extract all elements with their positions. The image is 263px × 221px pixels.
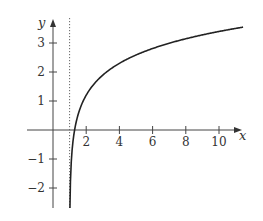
curve-group [70,27,243,208]
log-curve-plot: xy 246810−2−1123 [0,0,263,221]
y-tick-label: 3 [37,36,45,50]
x-tick-label: 8 [182,135,190,149]
y-tick-label: 1 [37,94,45,108]
axes: xy [27,15,247,208]
x-axis-label: x [239,128,247,143]
x-tick-label: 10 [211,135,226,149]
y-tick-label: 2 [37,65,45,79]
y-axis-arrow-icon [50,19,56,27]
y-axis-label: y [37,15,46,30]
x-tick-label: 4 [116,135,124,149]
x-tick-label: 6 [149,135,157,149]
x-tick-label: 2 [82,135,90,149]
y-tick-label: −1 [27,152,45,166]
ticks [49,43,219,188]
curve-line [70,27,243,208]
y-tick-label: −2 [27,181,45,195]
